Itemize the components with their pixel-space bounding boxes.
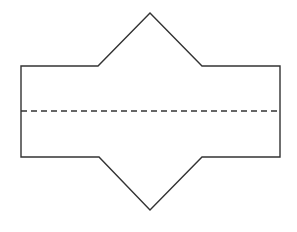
fold-net-diagram	[0, 0, 297, 232]
